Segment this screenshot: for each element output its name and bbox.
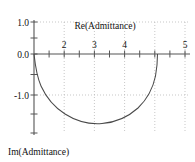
y-tick-label--1.0: -1.0 — [14, 91, 29, 101]
chart-canvas: 2 3 4 5 1.0 0.0 -1.0 Re(Admittance) Im(A… — [0, 0, 195, 162]
x-tick-label-3: 3 — [92, 40, 97, 50]
admittance-plot: 2 3 4 5 1.0 0.0 -1.0 Re(Admittance) Im(A… — [0, 0, 195, 162]
x-tick-label-4: 4 — [122, 40, 127, 50]
x-tick-label-2: 2 — [62, 40, 67, 50]
data-curve-admittance-locus — [34, 54, 158, 124]
y-tick-label-1.0: 1.0 — [17, 18, 29, 28]
gridlines-vertical — [64, 22, 185, 133]
y-tick-label-0.0: 0.0 — [17, 50, 29, 60]
x-tick-label-5: 5 — [183, 40, 188, 50]
y-axis-title: Im(Admittance) — [8, 147, 69, 158]
gridlines-horizontal — [34, 22, 190, 95]
x-axis-title: Re(Admittance) — [74, 21, 135, 32]
